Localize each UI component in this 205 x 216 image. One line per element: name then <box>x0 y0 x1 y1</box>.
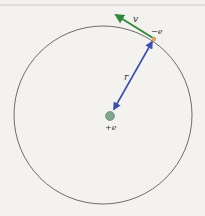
orbit-circle <box>14 26 192 204</box>
radius-arrow <box>114 42 152 109</box>
electron-label: −e <box>151 27 163 36</box>
electron <box>152 37 156 41</box>
diagram-stage: v −e r +e <box>0 0 205 216</box>
nucleus-label: +e <box>105 123 117 132</box>
velocity-label: v <box>133 14 138 24</box>
bohr-atom-diagram: v −e r +e <box>0 0 205 216</box>
radius-label: r <box>124 72 129 82</box>
nucleus <box>106 112 115 121</box>
